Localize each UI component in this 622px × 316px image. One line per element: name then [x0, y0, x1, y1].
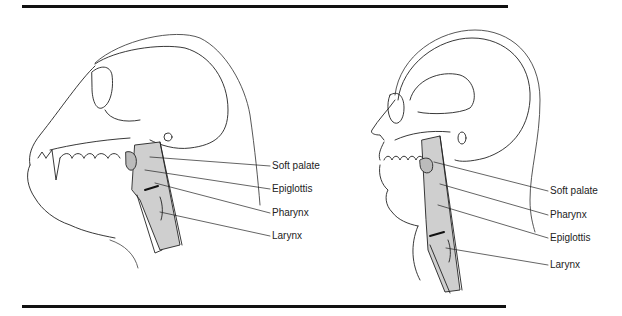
right-label-soft-palate: Soft palate [550, 185, 598, 197]
human-head-drawing [371, 30, 540, 280]
right-label-larynx: Larynx [550, 259, 580, 271]
right-label-pharynx: Pharynx [550, 209, 587, 221]
anatomy-illustration [0, 0, 622, 316]
left-label-epiglottis: Epiglottis [272, 183, 313, 195]
left-label-soft-palate: Soft palate [272, 160, 320, 172]
left-label-larynx: Larynx [272, 230, 302, 242]
right-label-epiglottis: Epiglottis [550, 232, 591, 244]
left-label-pharynx: Pharynx [272, 207, 309, 219]
human-airway [420, 136, 462, 293]
